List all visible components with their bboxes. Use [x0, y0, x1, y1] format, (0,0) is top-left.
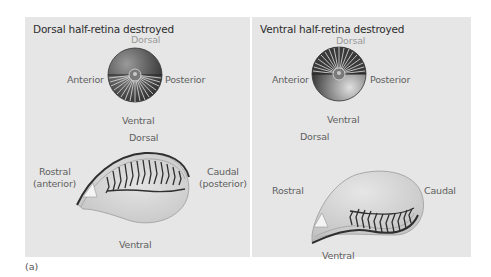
- tectum-label-anterior: (anterior): [33, 178, 76, 189]
- eye-label-anterior: Anterior: [272, 74, 309, 85]
- tectum-label-ventral: Ventral: [119, 239, 151, 250]
- tectum-diagram: [75, 147, 195, 237]
- eye-label-posterior: Posterior: [165, 74, 205, 85]
- panel-ventral-destroyed: Ventral half-retina destroyed Dorsal Ant…: [252, 17, 471, 257]
- tectum-label-dorsal: Dorsal: [300, 131, 329, 142]
- eye-label-ventral: Ventral: [122, 115, 154, 126]
- tectum-diagram: [310, 165, 430, 255]
- panel-title: Ventral half-retina destroyed: [260, 23, 404, 35]
- tectum-label-caudal: Caudal: [207, 166, 239, 177]
- eye-label-ventral: Ventral: [327, 114, 359, 125]
- eye-diagram: [105, 45, 165, 105]
- panel-dorsal-destroyed: Dorsal half-retina destroyed Dorsal Ante…: [25, 17, 250, 257]
- tectum-label-rostral: Rostral: [39, 166, 71, 177]
- eye-diagram: [309, 44, 369, 104]
- tectum-label-posterior: (posterior): [199, 178, 247, 189]
- figure-caption: (a): [25, 261, 38, 272]
- eye-label-dorsal: Dorsal: [131, 34, 160, 45]
- eye-label-anterior: Anterior: [67, 74, 104, 85]
- tectum-label-dorsal: Dorsal: [129, 132, 158, 143]
- eye-label-posterior: Posterior: [370, 74, 410, 85]
- tectum-label-rostral: Rostral: [272, 185, 304, 196]
